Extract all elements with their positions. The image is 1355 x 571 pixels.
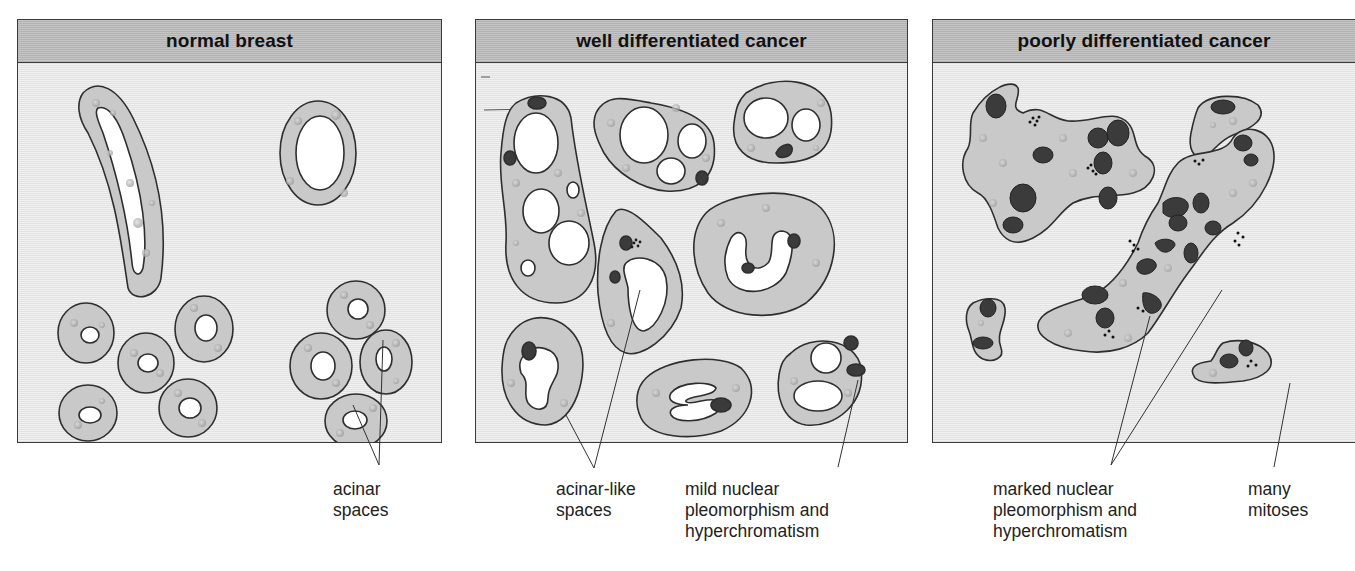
panel-well-differentiated-cancer: well differentiated cancer [475, 19, 908, 443]
normal-breast-illustration [18, 63, 441, 442]
panel-header: normal breast [18, 20, 441, 63]
annotation-acinar-like-spaces: acinar-like spaces [556, 479, 636, 521]
annotation-marked-nuclear-pleomorphism: marked nuclear pleomorphism and hyperchr… [993, 479, 1137, 542]
annotation-many-mitoses: many mitoses [1248, 479, 1308, 521]
gland [694, 193, 834, 315]
panel-header: well differentiated cancer [476, 20, 907, 63]
panel-title: well differentiated cancer [576, 30, 807, 52]
panel-title: poorly differentiated cancer [1017, 30, 1270, 52]
well-differentiated-illustration [476, 63, 907, 442]
panel-title: normal breast [166, 30, 293, 52]
annotation-acinar-spaces: acinar spaces [333, 479, 388, 521]
panel-header: poorly differentiated cancer [933, 20, 1355, 63]
annotation-mild-nuclear-pleomorphism: mild nuclear pleomorphism and hyperchrom… [685, 479, 829, 542]
acinus-lumen [296, 116, 344, 190]
panel-poorly-differentiated-cancer: poorly differentiated cancer [932, 19, 1355, 443]
poorly-differentiated-illustration [933, 63, 1354, 442]
panel-normal-breast: normal breast [17, 19, 442, 443]
